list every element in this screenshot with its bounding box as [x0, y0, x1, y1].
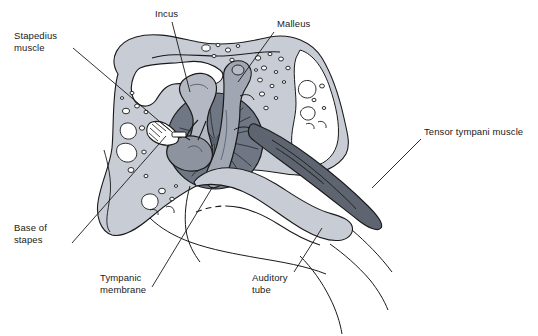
middle-ear-figure: The stapes is attached to the tympanic m… [0, 0, 538, 336]
label-auditory-tube: Auditory tube [252, 272, 288, 296]
label-tensor-tympani-muscle: Tensor tympani muscle [424, 126, 523, 138]
label-incus: Incus [155, 8, 178, 20]
label-malleus: Malleus [277, 18, 310, 30]
leader-tensor-tympani-muscle [372, 139, 421, 188]
label-tympanic-membrane: Tympanic membrane [100, 272, 146, 296]
lower-boundary-lines [300, 230, 392, 334]
label-base-of-stapes: Base of stapes [14, 222, 47, 246]
label-stapedius-muscle: Stapedius muscle [14, 30, 57, 54]
